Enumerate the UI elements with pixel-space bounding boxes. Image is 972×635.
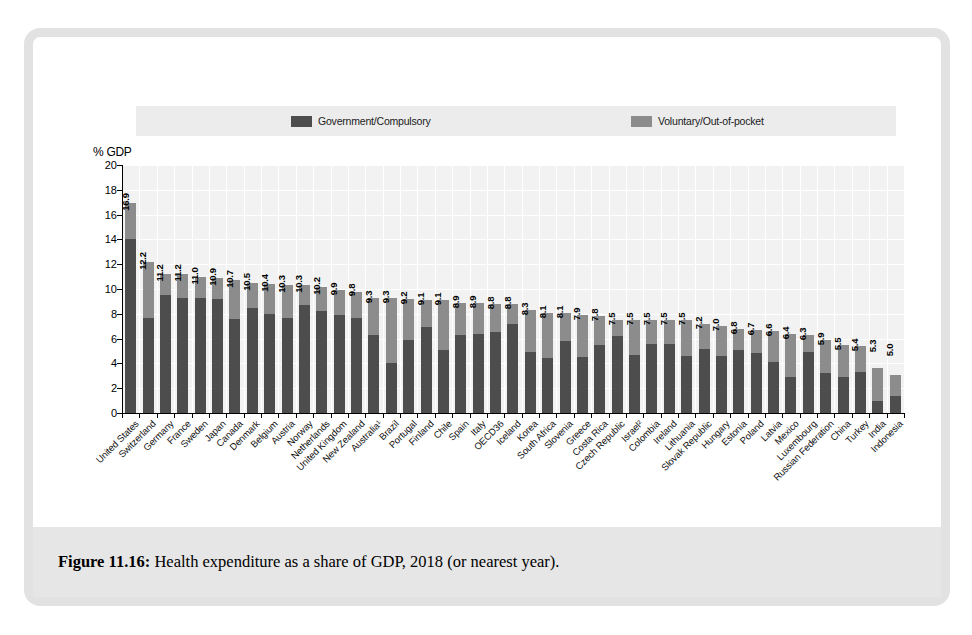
bar-stack[interactable]: 9.3 (368, 298, 379, 413)
bar-stack[interactable]: 7.2 (699, 324, 710, 413)
bar-slot[interactable]: 11.2 (157, 165, 174, 413)
bar-stack[interactable]: 12.2 (143, 262, 154, 413)
bar-segment-government[interactable] (803, 352, 814, 413)
bar-slot[interactable]: 5.9 (817, 165, 834, 413)
bar-segment-government[interactable] (386, 363, 397, 413)
bar-slot[interactable]: 5.3 (869, 165, 886, 413)
bar-stack[interactable]: 6.3 (803, 335, 814, 413)
bar-slot[interactable]: 5.5 (834, 165, 851, 413)
bar-stack[interactable]: 10.3 (282, 285, 293, 413)
bar-segment-voluntary[interactable] (542, 313, 553, 359)
bar-segment-government[interactable] (664, 344, 675, 413)
bar-slot[interactable]: 9.1 (435, 165, 452, 413)
bar-segment-government[interactable] (525, 352, 536, 413)
bar-slot[interactable]: 9.8 (348, 165, 365, 413)
bar-stack[interactable]: 10.9 (212, 278, 223, 413)
bar-slot[interactable]: 11.2 (174, 165, 191, 413)
bar-segment-government[interactable] (890, 396, 901, 413)
bar-stack[interactable]: 7.8 (594, 316, 605, 413)
bar-stack[interactable]: 8.9 (455, 303, 466, 413)
bar-stack[interactable]: 9.1 (421, 300, 432, 413)
bar-segment-government[interactable] (195, 298, 206, 413)
bar-segment-government[interactable] (455, 335, 466, 413)
bar-slot[interactable]: 8.8 (504, 165, 521, 413)
bar-stack[interactable]: 9.1 (438, 300, 449, 413)
bar-stack[interactable]: 7.0 (716, 326, 727, 413)
bar-stack[interactable]: 8.1 (560, 313, 571, 413)
bar-slot[interactable]: 5.4 (852, 165, 869, 413)
bar-stack[interactable]: 8.8 (490, 304, 501, 413)
bar-segment-government[interactable] (577, 357, 588, 413)
bar-segment-government[interactable] (629, 355, 640, 413)
bar-stack[interactable]: 7.5 (681, 320, 692, 413)
bar-segment-government[interactable] (299, 305, 310, 413)
bar-slot[interactable]: 5.0 (887, 165, 904, 413)
bar-segment-government[interactable] (473, 334, 484, 413)
bar-slot[interactable]: 6.3 (800, 165, 817, 413)
bar-stack[interactable]: 8.3 (525, 310, 536, 413)
bar-segment-government[interactable] (733, 350, 744, 413)
bar-segment-government[interactable] (334, 315, 345, 413)
bar-slot[interactable]: 6.7 (748, 165, 765, 413)
bar-segment-government[interactable] (490, 332, 501, 413)
bar-slot[interactable]: 7.5 (643, 165, 660, 413)
bar-stack[interactable]: 6.7 (751, 330, 762, 413)
bar-stack[interactable]: 5.5 (838, 345, 849, 413)
bar-slot[interactable]: 7.8 (591, 165, 608, 413)
bar-segment-government[interactable] (594, 345, 605, 413)
legend-entry-voluntary[interactable]: Voluntary/Out-of-pocket (631, 115, 764, 127)
bar-slot[interactable]: 7.5 (678, 165, 695, 413)
bar-stack[interactable]: 10.2 (316, 287, 327, 413)
bar-slot[interactable]: 8.3 (522, 165, 539, 413)
bar-stack[interactable]: 6.8 (733, 329, 744, 413)
bar-segment-government[interactable] (125, 239, 136, 413)
bar-slot[interactable]: 9.2 (400, 165, 417, 413)
bar-segment-government[interactable] (751, 353, 762, 413)
bar-slot[interactable]: 9.3 (383, 165, 400, 413)
bar-segment-government[interactable] (560, 341, 571, 413)
bar-stack[interactable]: 9.2 (403, 299, 414, 413)
bar-stack[interactable]: 7.5 (612, 320, 623, 413)
bar-segment-voluntary[interactable] (525, 310, 536, 352)
bar-segment-government[interactable] (872, 401, 883, 413)
bar-segment-voluntary[interactable] (785, 334, 796, 377)
bar-stack[interactable]: 6.6 (768, 331, 779, 413)
bar-segment-government[interactable] (229, 319, 240, 413)
bar-stack[interactable]: 7.9 (577, 315, 588, 413)
bar-segment-voluntary[interactable] (681, 320, 692, 356)
bar-segment-government[interactable] (212, 299, 223, 413)
bar-segment-government[interactable] (403, 340, 414, 413)
bar-stack[interactable]: 10.7 (229, 280, 240, 413)
bar-stack[interactable]: 11.0 (195, 277, 206, 413)
bar-slot[interactable]: 7.5 (661, 165, 678, 413)
bar-segment-voluntary[interactable] (368, 298, 379, 335)
bar-segment-government[interactable] (438, 350, 449, 413)
bar-stack[interactable]: 5.0 (890, 351, 901, 413)
bar-slot[interactable]: 7.2 (695, 165, 712, 413)
bar-segment-government[interactable] (542, 358, 553, 413)
bar-slot[interactable]: 7.0 (713, 165, 730, 413)
bar-slot[interactable]: 7.9 (574, 165, 591, 413)
bar-segment-voluntary[interactable] (872, 368, 883, 400)
bar-segment-government[interactable] (785, 377, 796, 413)
bar-segment-government[interactable] (143, 318, 154, 413)
bar-slot[interactable]: 8.1 (539, 165, 556, 413)
bar-slot[interactable]: 8.9 (470, 165, 487, 413)
bar-stack[interactable]: 9.8 (351, 291, 362, 413)
bar-segment-government[interactable] (368, 335, 379, 413)
bar-segment-government[interactable] (699, 349, 710, 413)
bar-segment-government[interactable] (264, 314, 275, 413)
bar-slot[interactable]: 9.1 (417, 165, 434, 413)
bar-segment-government[interactable] (160, 295, 171, 413)
bar-segment-voluntary[interactable] (438, 300, 449, 350)
bar-slot[interactable]: 8.1 (556, 165, 573, 413)
bar-segment-government[interactable] (716, 356, 727, 413)
bar-stack[interactable]: 6.4 (785, 334, 796, 413)
bar-segment-voluntary[interactable] (629, 320, 640, 355)
bar-slot[interactable]: 6.8 (730, 165, 747, 413)
bar-segment-government[interactable] (177, 298, 188, 413)
bar-slot[interactable]: 16.9 (122, 165, 139, 413)
bar-segment-government[interactable] (316, 311, 327, 413)
bar-segment-government[interactable] (351, 318, 362, 413)
bar-stack[interactable]: 5.3 (872, 347, 883, 413)
